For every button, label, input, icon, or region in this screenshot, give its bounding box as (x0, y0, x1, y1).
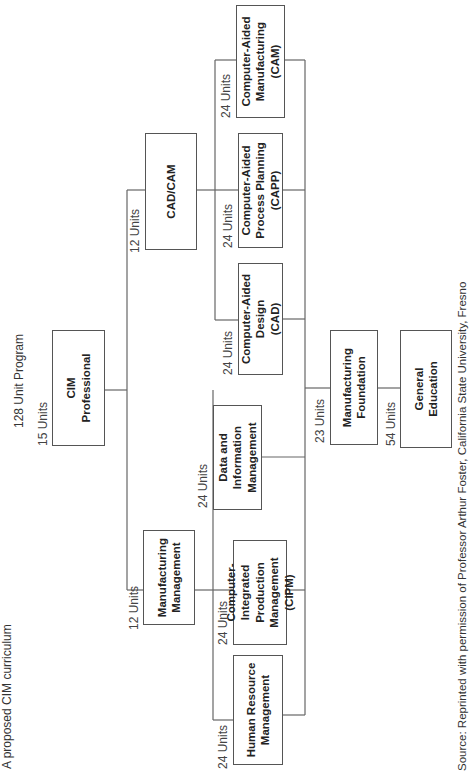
units-label-general-education: 54 Units (384, 402, 398, 446)
units-label-cad: 24 Units (221, 331, 235, 375)
node-manufacturing-foundation: Manufacturing Foundation (330, 330, 378, 445)
node-cad-cam: CAD/CAM (145, 133, 197, 250)
node-label: Manufacturing Management (155, 538, 184, 617)
units-label-human-resource-management: 24 Units (216, 725, 230, 769)
units-label-capp: 24 Units (221, 204, 235, 248)
node-label: Computer-Aided Process Planning (CAPP) (239, 142, 282, 239)
node-capp: Computer-Aided Process Planning (CAPP) (238, 133, 283, 248)
node-cam: Computer-Aided Manufacturing (CAM) (236, 5, 285, 118)
node-label: CIM Professional (64, 353, 93, 422)
node-manufacturing-management: Manufacturing Management (143, 530, 195, 625)
diagram-frame: A proposed CIM curriculum 128 Unit Progr… (0, 0, 471, 773)
node-cim-professional: CIM Professional (52, 330, 105, 446)
node-label: CAD/CAM (164, 164, 178, 218)
node-label: Computer-Aided Manufacturing (CAM) (239, 16, 282, 106)
node-label: General Education (412, 361, 441, 417)
node-label: Human Resource Management (244, 663, 273, 758)
node-label: Computer-Aided Design (CAD) (239, 274, 282, 364)
units-label-manufacturing-management: 12 Units (127, 586, 141, 630)
node-data-information-management: Data and Information Management (213, 405, 262, 510)
node-label: Computer-Integrated Production Managemen… (224, 545, 296, 640)
node-cad: Computer-Aided Design (CAD) (238, 263, 283, 375)
units-label-cad-cam: 12 Units (128, 209, 142, 253)
node-label: Data and Information Management (216, 422, 259, 492)
node-cipm: Computer-Integrated Production Managemen… (233, 540, 287, 645)
units-label-data-information-management: 24 Units (196, 464, 210, 508)
units-label-manufacturing-foundation: 23 Units (313, 399, 327, 443)
source-note: Source: Reprinted with permission of Pro… (456, 282, 468, 771)
units-label-cim-professional: 15 Units (36, 402, 50, 446)
node-label: Manufacturing Foundation (340, 348, 369, 427)
node-human-resource-management: Human Resource Management (233, 655, 283, 765)
node-general-education: General Education (400, 330, 452, 448)
units-label-cam: 24 Units (219, 74, 233, 118)
